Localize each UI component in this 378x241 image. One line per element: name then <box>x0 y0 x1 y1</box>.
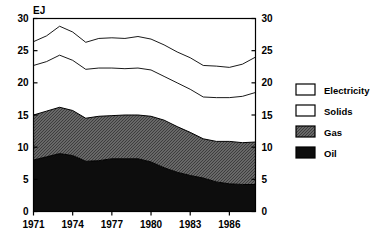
x-tick-label: 1977 <box>101 219 124 230</box>
x-tick-label: 1980 <box>140 219 163 230</box>
y-tick-label-right: 10 <box>262 142 274 153</box>
y-tick-label-left: 5 <box>23 174 29 185</box>
legend-label-solids: Solids <box>324 106 353 117</box>
y-tick-label-left: 0 <box>23 206 29 217</box>
legend-swatch-oil <box>296 147 315 158</box>
legend-label-gas: Gas <box>324 127 342 138</box>
x-axis: 197119741977198019831986 <box>22 212 241 230</box>
y-tick-label-right: 0 <box>262 206 268 217</box>
y-tick-label-right: 25 <box>262 45 274 56</box>
x-tick-label: 1974 <box>62 219 85 230</box>
y-tick-label-right: 5 <box>262 174 268 185</box>
x-tick-label: 1971 <box>22 219 45 230</box>
area-layers <box>34 26 256 211</box>
legend-swatch-electricity <box>296 84 315 95</box>
x-tick-label: 1983 <box>179 219 202 230</box>
legend-label-oil: Oil <box>324 148 337 159</box>
y-tick-label-left: 25 <box>17 45 29 56</box>
chart-root: EJ 051015202530 051015202530 19711974197… <box>0 0 378 241</box>
y-tick-label-left: 30 <box>17 13 29 24</box>
chart-legend: ElectricitySolidsGasOil <box>296 84 370 159</box>
y-tick-label-left: 15 <box>17 110 29 121</box>
legend-swatch-gas <box>296 126 315 137</box>
x-tick-label: 1986 <box>218 219 241 230</box>
y-tick-label-right: 20 <box>262 77 274 88</box>
y-tick-label-right: 15 <box>262 110 274 121</box>
y-tick-label-left: 20 <box>17 77 29 88</box>
legend-swatch-solids <box>296 105 315 116</box>
y-tick-label-left: 10 <box>17 142 29 153</box>
legend-label-electricity: Electricity <box>324 85 370 96</box>
y-tick-label-right: 30 <box>262 13 274 24</box>
stacked-area-chart: 051015202530 051015202530 19711974197719… <box>0 0 378 241</box>
